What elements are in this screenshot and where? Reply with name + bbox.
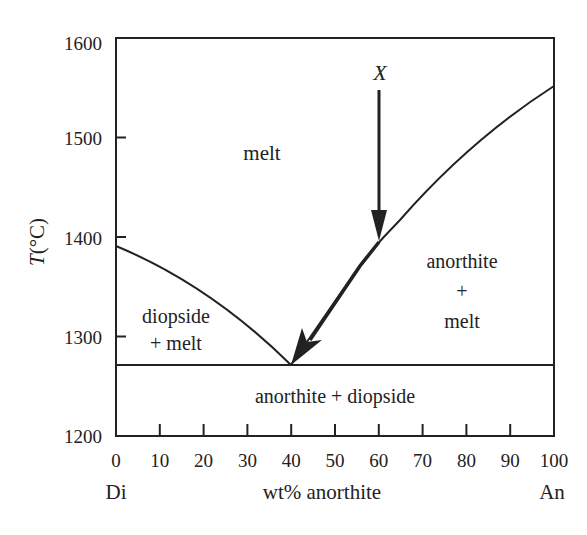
svg-text:50: 50 <box>326 450 345 471</box>
svg-text:1400: 1400 <box>64 228 102 249</box>
diopside-melt-label-1: diopside <box>142 305 210 328</box>
di-label: Di <box>106 480 127 504</box>
svg-text:1500: 1500 <box>64 128 102 149</box>
svg-text:80: 80 <box>457 450 476 471</box>
x-point-label: X <box>372 60 388 85</box>
an-label: An <box>539 480 565 504</box>
svg-text:40: 40 <box>282 450 301 471</box>
cooling-arrow-liquidus <box>310 242 379 340</box>
x-axis-label: wt% anorthite <box>263 480 381 504</box>
anorthite-diopside-label: anorthite + diopside <box>255 385 415 408</box>
anorthite-melt-label-3: melt <box>444 310 480 332</box>
melt-region-label: melt <box>243 141 280 165</box>
plot-frame <box>116 38 554 436</box>
svg-text:1600: 1600 <box>64 33 102 54</box>
svg-text:30: 30 <box>238 450 257 471</box>
arrowhead-down-left-icon <box>291 328 322 365</box>
svg-text:1300: 1300 <box>64 327 102 348</box>
anorthite-melt-label-2: + <box>456 280 467 302</box>
svg-text:0: 0 <box>111 450 121 471</box>
svg-text:60: 60 <box>369 450 388 471</box>
anorthite-melt-label-1: anorthite <box>426 250 497 272</box>
x-tick-labels: 0 10 20 30 40 50 60 70 80 90 100 <box>111 450 568 471</box>
diopside-melt-label-2: + melt <box>150 332 202 354</box>
x-ticks <box>160 424 510 436</box>
svg-text:10: 10 <box>150 450 169 471</box>
y-ticks <box>116 138 126 337</box>
y-tick-labels: 1600 1500 1400 1300 1200 <box>64 33 102 447</box>
anorthite-liquidus <box>291 86 554 365</box>
svg-text:1200: 1200 <box>64 426 102 447</box>
svg-text:90: 90 <box>501 450 520 471</box>
y-axis-label: T(°C) <box>25 218 49 266</box>
svg-text:100: 100 <box>540 450 569 471</box>
svg-text:70: 70 <box>413 450 432 471</box>
svg-text:20: 20 <box>194 450 213 471</box>
phase-diagram: 1600 1500 1400 1300 1200 0 10 20 30 40 5… <box>0 0 587 535</box>
